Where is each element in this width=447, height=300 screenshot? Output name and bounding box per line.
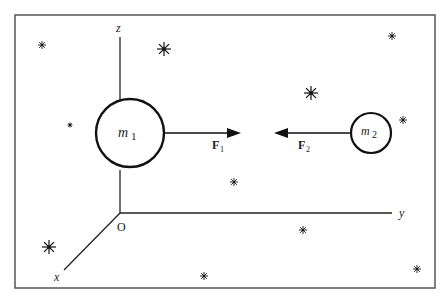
force-1-subscript: 1 [220,145,224,154]
x-axis-label: x [53,270,60,284]
star-icon [230,178,238,186]
arrowhead-left-icon [274,128,288,138]
star-icon [388,32,396,40]
z-axis-label: z [115,21,121,35]
star-icon [299,226,307,234]
star-icon [38,41,46,49]
arrowhead-right-icon [227,128,241,138]
mass-1-circle [96,99,164,167]
force-1-label: F [212,138,219,152]
star-icon [200,272,208,280]
x-axis [64,213,120,270]
star-icon [399,116,407,124]
gravitation-diagram: z y x O m 1 m 2 F 1 F 2 [0,0,447,300]
star-icon [157,42,171,56]
star-icon [304,86,318,100]
y-axis-label: y [398,206,405,220]
mass-2-label: m [361,124,370,138]
mass-1-label: m [118,125,128,140]
force-1-arrow [164,128,241,138]
force-2-label: F [298,138,305,152]
mass-1-subscript: 1 [131,130,137,142]
star-icon [413,265,421,273]
mass-2-subscript: 2 [372,129,377,140]
star-field [38,32,421,280]
force-2-subscript: 2 [306,145,310,154]
mass-2-circle [351,113,391,153]
star-icon [68,123,73,128]
origin-label: O [117,220,126,234]
star-icon [42,240,56,254]
force-2-arrow [274,128,351,138]
